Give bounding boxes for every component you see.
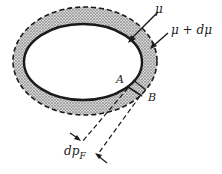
label-mu-plus-dmu: μ + dμ — [171, 24, 212, 36]
label-point-b: B — [148, 92, 156, 103]
label-mu: μ — [155, 3, 163, 15]
label-dp-subscript: F — [79, 151, 85, 161]
label-dp: dpF — [64, 145, 86, 157]
inner-surface — [24, 24, 142, 100]
label-dp-main: dp — [64, 144, 79, 158]
diagram-canvas: μ μ + dμ A B dpF — [0, 0, 222, 174]
label-point-a: A — [116, 74, 124, 85]
